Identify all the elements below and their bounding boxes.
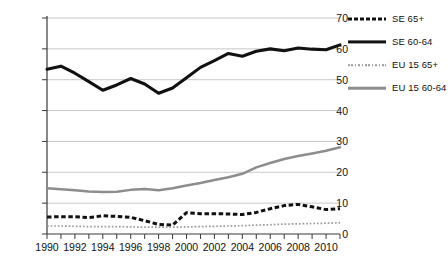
x-axis-tick-label: 1994: [91, 242, 114, 253]
plot-area: 706050403020100 199019921994199619982000…: [0, 0, 348, 266]
legend-label: SE 60-64: [392, 37, 432, 47]
legend-item-se-65[interactable]: SE 65+: [348, 12, 424, 26]
y-axis-tick-label: 20: [309, 167, 348, 177]
series-line-eu-15-65: [47, 223, 340, 227]
chart-legend: SE 65+SE 60-64EU 15 65+EU 15 60-64: [348, 0, 448, 266]
x-axis-tick-label: 1996: [119, 242, 142, 253]
y-axis-tick-label: 60: [309, 44, 348, 54]
x-axis-tick-label: 1990: [35, 242, 58, 253]
legend-item-eu-15-65[interactable]: EU 15 65+: [348, 58, 438, 72]
legend-swatch-icon: [348, 37, 386, 47]
chart-canvas: [0, 0, 348, 266]
x-axis-tick-label: 1998: [147, 242, 170, 253]
gridlines: [47, 18, 340, 203]
legend-label: SE 65+: [392, 14, 424, 24]
series-line-se-65: [47, 204, 340, 225]
legend-label: EU 15 65+: [392, 60, 438, 70]
y-axis-tick-label: 40: [309, 106, 348, 116]
x-axis-tick-label: 2008: [286, 242, 309, 253]
x-axis-tick-label: 2002: [203, 242, 226, 253]
y-axis-tick-label: 50: [309, 75, 348, 85]
x-axis-tick-label: 2000: [175, 242, 198, 253]
x-axis-ticks: [47, 234, 340, 239]
legend-swatch-icon: [348, 60, 386, 70]
data-series-layer: [47, 45, 340, 227]
legend-item-eu-15-60-64[interactable]: EU 15 60-64: [348, 81, 446, 95]
y-axis-tick-label: 10: [309, 198, 348, 208]
x-axis-tick-label: 2004: [231, 242, 254, 253]
legend-item-se-60-64[interactable]: SE 60-64: [348, 35, 432, 49]
series-line-eu-15-60-64: [47, 147, 340, 192]
y-axis-tick-label: 70: [309, 13, 348, 23]
legend-swatch-icon: [348, 83, 386, 93]
x-axis-tick-label: 1992: [63, 242, 86, 253]
series-line-se-60-64: [47, 45, 340, 93]
legend-swatch-icon: [348, 14, 386, 24]
y-axis-ticks: [42, 18, 47, 234]
y-axis-tick-label: 0: [309, 229, 348, 239]
y-axis-tick-label: 30: [309, 136, 348, 146]
legend-label: EU 15 60-64: [392, 83, 446, 93]
x-axis-tick-label: 2010: [314, 242, 337, 253]
line-chart: 706050403020100 199019921994199619982000…: [0, 0, 448, 266]
x-axis-tick-label: 2006: [259, 242, 282, 253]
